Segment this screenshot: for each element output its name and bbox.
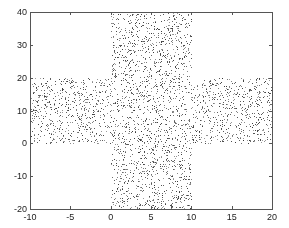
y-tick-label: 10 bbox=[0, 106, 27, 116]
scatter-plot-canvas bbox=[0, 0, 289, 228]
y-tick-label: 30 bbox=[0, 40, 27, 50]
x-tick-label: 5 bbox=[136, 212, 166, 222]
y-tick-label: 40 bbox=[0, 7, 27, 17]
y-tick-label: 0 bbox=[0, 138, 27, 148]
x-tick-label: 10 bbox=[176, 212, 206, 222]
y-tick-label: -10 bbox=[0, 171, 27, 181]
figure: -10-505101520 -20-10010203040 bbox=[0, 0, 289, 228]
x-tick-label: 15 bbox=[217, 212, 247, 222]
x-tick-label: 0 bbox=[96, 212, 126, 222]
y-tick-label: -20 bbox=[0, 204, 27, 214]
y-tick-label: 20 bbox=[0, 73, 27, 83]
x-tick-label: -5 bbox=[55, 212, 85, 222]
x-tick-label: 20 bbox=[257, 212, 287, 222]
